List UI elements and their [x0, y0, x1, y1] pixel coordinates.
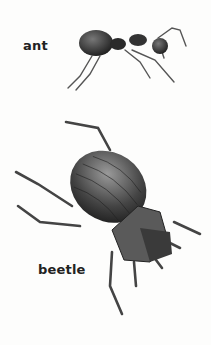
beetle-label: beetle	[38, 262, 86, 277]
beetle-drawing	[16, 122, 200, 314]
illustration-page: ant beetle	[0, 0, 211, 345]
ant-drawing	[68, 28, 186, 90]
ant-label: ant	[23, 38, 48, 53]
